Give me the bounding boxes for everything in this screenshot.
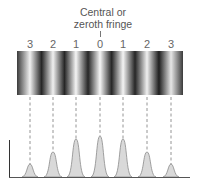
intensity-peaks bbox=[22, 136, 179, 177]
interference-figure bbox=[0, 0, 197, 185]
fringe-pattern bbox=[17, 51, 183, 95]
